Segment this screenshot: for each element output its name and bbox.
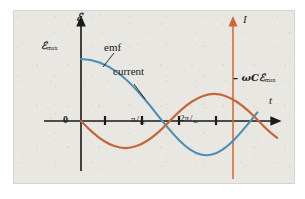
current-max-subscript: max bbox=[265, 76, 276, 83]
tick-label-2pi-denominator: ω bbox=[193, 117, 198, 125]
emf-max-label: ℰmax bbox=[41, 41, 58, 52]
figure-container: ℰ ℰmax emf current I – ωCℰmax 0 π/ω 2π/ω… bbox=[0, 0, 305, 199]
current-axis-symbol: I bbox=[243, 14, 247, 25]
tick-label-pi-denominator: ω bbox=[140, 118, 145, 126]
current-leader-line bbox=[134, 84, 145, 99]
origin-label: 0 bbox=[63, 115, 68, 125]
plot-frame bbox=[13, 10, 295, 184]
emf-curve-label: emf bbox=[104, 42, 121, 53]
current-max-label: – ωCℰmax bbox=[233, 73, 276, 84]
tick-label-2pi-over-omega: 2π/ω bbox=[180, 114, 198, 125]
plot-canvas bbox=[14, 11, 294, 183]
current-max-symbol: – ωCℰ bbox=[233, 72, 265, 83]
emf-max-subscript: max bbox=[47, 44, 58, 51]
emf-curve bbox=[81, 59, 257, 155]
tick-label-pi-over-omega: π/ω bbox=[131, 115, 144, 126]
tick-label-2pi-numerator: 2π bbox=[180, 113, 189, 123]
current-curve-label: current bbox=[113, 66, 144, 77]
emf-axis-symbol: ℰ bbox=[76, 12, 83, 23]
time-axis-symbol: t bbox=[269, 95, 272, 106]
